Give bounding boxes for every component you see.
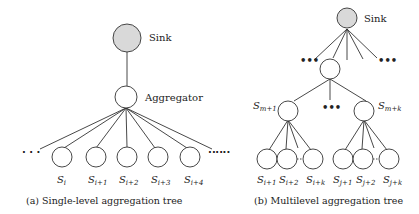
- sub-aggregator-node: [278, 101, 298, 121]
- leaf-node: [257, 149, 277, 169]
- edge: [330, 79, 366, 101]
- edge-leaf: [64, 108, 126, 148]
- leaf-label: Si+1: [257, 174, 276, 187]
- leaf-label: Sj+1: [333, 174, 352, 187]
- sub-aggregator-node: [354, 101, 374, 121]
- aggregator-node: [320, 59, 340, 79]
- caption-b: (b) Multilevel aggregation tree: [254, 195, 403, 206]
- leaf-label: Si+4: [184, 174, 203, 187]
- leaf-node: [277, 149, 297, 169]
- sink-node: [113, 24, 141, 52]
- leaf-node: [353, 149, 373, 169]
- aggregator-node: [115, 86, 137, 108]
- leaf-node: [148, 147, 168, 167]
- node-label: Sm+1: [253, 100, 277, 113]
- leaf-node: [180, 147, 200, 167]
- edge: [288, 120, 298, 148]
- edge-leaf: [96, 108, 126, 148]
- multilevel-tree: Sink ••• ••• Sm+1 ••• Sm+k · · · Si+1 Si…: [212, 8, 403, 206]
- leaf-node: [303, 149, 323, 169]
- leaf-node: [117, 147, 137, 167]
- edge: [364, 120, 374, 148]
- ellipsis: •••: [300, 55, 319, 66]
- leaf-label: Si+2: [119, 174, 139, 187]
- edge-leaf: [126, 108, 187, 148]
- sink-label: Sink: [364, 13, 387, 24]
- edge: [269, 120, 288, 150]
- edge-right-ellipsis: [126, 108, 212, 149]
- aggregator-label: Aggregator: [144, 92, 203, 103]
- leaf-label: Si+3: [151, 174, 171, 187]
- edge: [333, 29, 347, 58]
- edge: [286, 120, 288, 149]
- leaf-label: Si+2: [279, 174, 299, 187]
- edge-leaf: [126, 108, 127, 147]
- leaf-node: [86, 147, 106, 167]
- edge: [288, 120, 311, 150]
- edge-left-ellipsis: [40, 108, 126, 149]
- edge: [347, 29, 377, 58]
- edge-leaf: [126, 108, 155, 148]
- leaf-node: [379, 149, 399, 169]
- left-ellipsis: · · ·: [22, 147, 40, 158]
- aggregation-tree-figure: Sink Aggregator · · · · · · Si Si+1 Si+2…: [0, 0, 419, 214]
- single-level-tree: Sink Aggregator · · · · · · Si Si+1 Si+2…: [22, 24, 226, 206]
- edge: [345, 120, 364, 150]
- leaf-label: Si+k: [306, 174, 325, 187]
- leaf-label: Sj+k: [383, 174, 402, 187]
- edge: [364, 120, 387, 150]
- ellipsis: •••: [322, 102, 341, 113]
- ellipsis: · · ·: [212, 147, 230, 158]
- edge: [347, 29, 363, 59]
- sink-node: [337, 8, 357, 28]
- leaf-node: [333, 149, 353, 169]
- edge: [294, 79, 330, 101]
- leaf-label: Si+1: [88, 174, 107, 187]
- leaf-label: Si: [57, 174, 66, 187]
- leaf-label: Sj+2: [356, 174, 376, 187]
- edge: [362, 120, 364, 149]
- leaf-node: [52, 147, 72, 167]
- caption-a: (a) Single-level aggregation tree: [26, 195, 183, 206]
- ellipsis: •••: [378, 55, 397, 66]
- sink-label: Sink: [149, 32, 172, 43]
- node-label: Sm+k: [378, 100, 402, 113]
